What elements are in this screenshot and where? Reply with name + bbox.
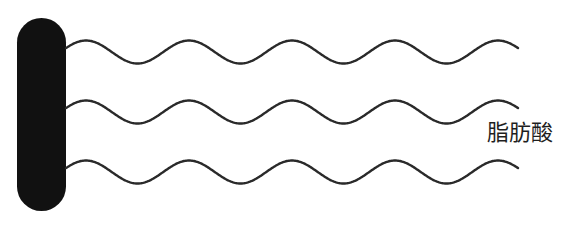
polar-head-bar: [17, 18, 66, 211]
tail-wave-3: [66, 161, 518, 184]
tail-wave-2: [66, 101, 518, 124]
tail-wave-1: [66, 41, 518, 64]
fatty-acid-diagram: [0, 0, 576, 231]
fatty-acid-label: 脂肪酸: [487, 118, 553, 148]
hydrocarbon-tails: [66, 41, 518, 184]
